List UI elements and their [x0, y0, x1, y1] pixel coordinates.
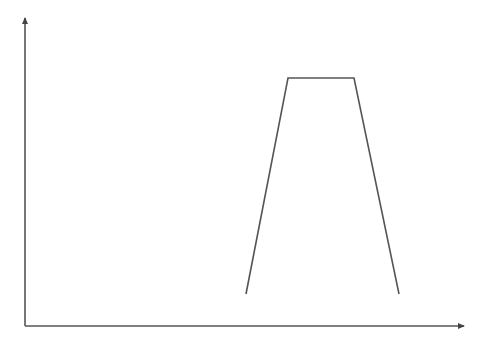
trapezoid-diagram	[0, 0, 487, 343]
trapezoid-profile-line	[246, 78, 399, 294]
